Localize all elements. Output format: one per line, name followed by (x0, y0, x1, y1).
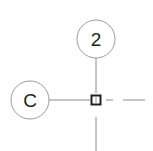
column-marker[interactable] (92, 96, 101, 105)
grid-bubble-c-label: C (23, 90, 37, 111)
grid-bubble-c[interactable]: C (11, 81, 49, 119)
grid-bubble-2-label: 2 (91, 29, 102, 50)
grid-plan-canvas: 2 C (0, 0, 153, 151)
grid-bubble-2[interactable]: 2 (77, 20, 115, 58)
